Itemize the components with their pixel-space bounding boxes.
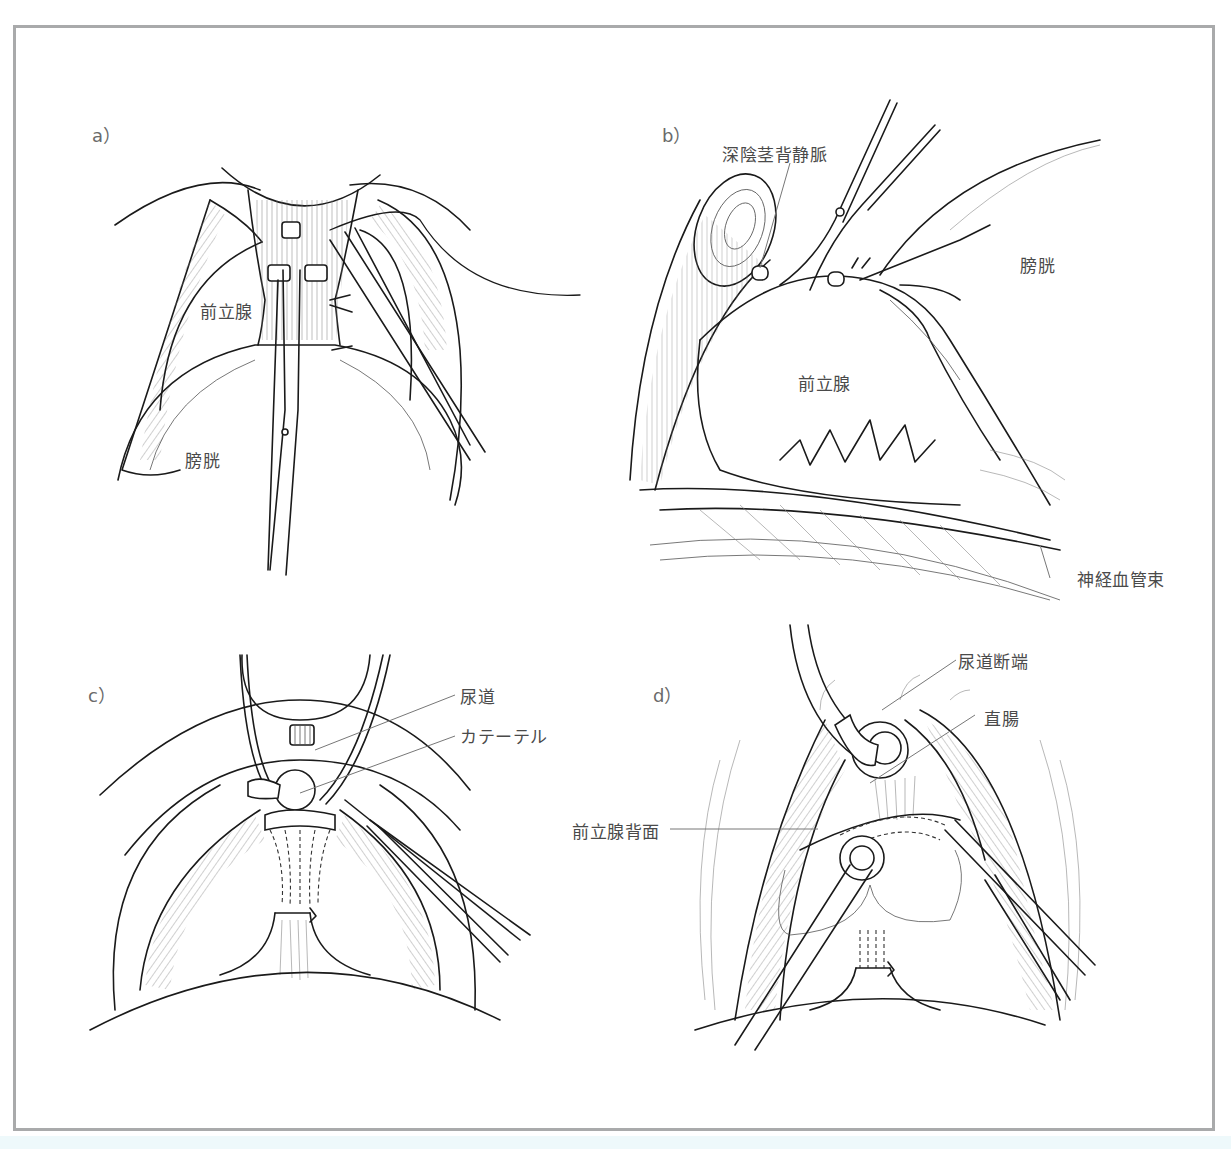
panel-b-drawing	[630, 100, 1100, 600]
label-catheter: カテーテル	[460, 723, 548, 748]
label-prostate-a: 前立腺	[200, 298, 253, 323]
panel-d-label: d）	[653, 681, 682, 707]
panel-a-drawing	[115, 168, 580, 575]
label-deep-dorsal-vein: 深陰茎背静脈	[722, 141, 827, 166]
panel-d-drawing	[695, 625, 1095, 1050]
panel-c-label: c）	[88, 681, 116, 707]
panel-b-label: b）	[662, 121, 691, 147]
label-neurovascular-bundle: 神経血管束	[1077, 566, 1165, 591]
label-prostate-posterior: 前立腺背面	[572, 818, 660, 843]
label-bladder-b: 膀胱	[1020, 252, 1055, 277]
label-prostate-b: 前立腺	[798, 370, 851, 395]
label-urethral-stump: 尿道断端	[958, 648, 1028, 673]
panel-c-drawing	[90, 655, 530, 1030]
surgical-illustration	[0, 0, 1231, 1149]
label-bladder-a: 膀胱	[185, 447, 220, 472]
label-urethra: 尿道	[460, 683, 495, 708]
label-rectum: 直腸	[984, 705, 1019, 730]
panel-a-label: a）	[92, 121, 121, 147]
